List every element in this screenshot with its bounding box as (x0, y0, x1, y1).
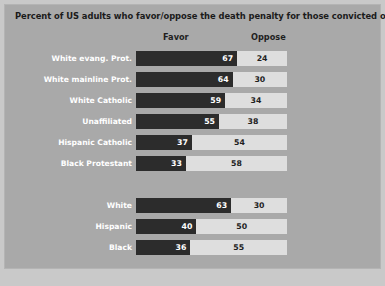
bar-fill-favor: 67 (136, 51, 237, 66)
bar-row-label: Black Protestant (13, 156, 132, 171)
bar-row-label: White mainline Prot. (13, 72, 132, 87)
bar-track: 4050 (136, 219, 287, 234)
chart-rows-area: White evang. Prot.6724White mainline Pro… (5, 5, 380, 268)
oppose-value-label: 58 (225, 156, 247, 171)
oppose-value-label: 55 (228, 240, 250, 255)
favor-value-label: 64 (218, 72, 229, 87)
bar-track: 6724 (136, 51, 287, 66)
bar-fill-favor: 36 (136, 240, 190, 255)
bar-track: 5934 (136, 93, 287, 108)
bar-track: 3754 (136, 135, 287, 150)
bar-row-label: Hispanic (13, 219, 132, 234)
bar-track: 3655 (136, 240, 287, 255)
favor-value-label: 40 (182, 219, 193, 234)
bar-track: 3358 (136, 156, 287, 171)
bar-row: Black Protestant3358 (5, 156, 380, 171)
bar-track: 6430 (136, 72, 287, 87)
oppose-value-label: 30 (249, 72, 271, 87)
bar-track: 6330 (136, 198, 287, 213)
bar-row: Unaffiliated5538 (5, 114, 380, 129)
oppose-value-label: 50 (231, 219, 253, 234)
bar-row: Hispanic4050 (5, 219, 380, 234)
bar-fill-favor: 33 (136, 156, 186, 171)
bar-row-label: White evang. Prot. (13, 51, 132, 66)
favor-value-label: 59 (210, 93, 221, 108)
bar-row: White Catholic5934 (5, 93, 380, 108)
bar-row-label: Unaffiliated (13, 114, 132, 129)
bar-fill-favor: 40 (136, 219, 196, 234)
oppose-value-label: 38 (242, 114, 264, 129)
bar-fill-favor: 63 (136, 198, 231, 213)
bar-row: Black3655 (5, 240, 380, 255)
bar-row: Hispanic Catholic3754 (5, 135, 380, 150)
favor-value-label: 37 (177, 135, 188, 150)
bar-row-label: Hispanic Catholic (13, 135, 132, 150)
bar-track: 5538 (136, 114, 287, 129)
bar-fill-favor: 37 (136, 135, 192, 150)
chart-panel: Percent of US adults who favor/oppose th… (4, 4, 381, 269)
oppose-value-label: 24 (251, 51, 273, 66)
bar-row-label: White Catholic (13, 93, 132, 108)
bar-fill-favor: 64 (136, 72, 233, 87)
bar-row: White6330 (5, 198, 380, 213)
bar-row-label: White (13, 198, 132, 213)
bar-fill-favor: 59 (136, 93, 225, 108)
bar-row: White evang. Prot.6724 (5, 51, 380, 66)
oppose-value-label: 30 (248, 198, 270, 213)
oppose-value-label: 34 (245, 93, 267, 108)
oppose-value-label: 54 (228, 135, 250, 150)
favor-value-label: 55 (204, 114, 215, 129)
bar-fill-favor: 55 (136, 114, 219, 129)
favor-value-label: 67 (222, 51, 233, 66)
bar-row-label: Black (13, 240, 132, 255)
bar-row: White mainline Prot.6430 (5, 72, 380, 87)
favor-value-label: 63 (216, 198, 227, 213)
favor-value-label: 33 (171, 156, 182, 171)
favor-value-label: 36 (176, 240, 187, 255)
